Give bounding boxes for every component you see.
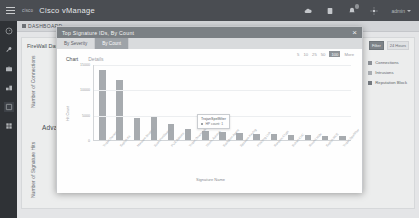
y-axis-tick-label: 0 <box>88 139 90 143</box>
sidebar-item-configuration[interactable] <box>4 64 14 74</box>
briefcase-icon <box>5 65 13 73</box>
gridline <box>94 65 351 66</box>
sidebar-item-tools[interactable] <box>4 83 14 93</box>
y-axis-tick-label: 10000 <box>80 88 90 92</box>
wrench-icon <box>5 46 13 54</box>
modal-header: Top Signature IDs, By Count × <box>57 27 362 38</box>
bar[interactable] <box>288 135 295 140</box>
bar[interactable] <box>99 70 106 140</box>
dashboard-icon <box>22 24 26 28</box>
legend-swatch <box>368 71 372 75</box>
x-axis-tick-label: Rootkit.Hide <box>308 145 329 164</box>
legend-swatch <box>368 61 372 65</box>
bar[interactable] <box>185 129 192 140</box>
x-axis-ticks: Trojan.GenericExploit.KitMalware.Dropper… <box>93 143 351 173</box>
x-axis-title: Signature Name <box>66 177 355 182</box>
legend-swatch <box>368 81 372 85</box>
sidebar-item-maintenance[interactable] <box>4 102 14 112</box>
tab-by-severity[interactable]: By Severity <box>57 38 95 49</box>
tools-icon <box>5 84 13 92</box>
user-menu[interactable]: admin <box>391 8 411 14</box>
gridline <box>94 90 351 91</box>
x-axis-tick-label: PUA.Adware <box>170 145 191 164</box>
chart-y-axis-label-top: Number of Connections <box>30 55 36 108</box>
chart-y-axis-label-bottom: Number of Signature Hits <box>30 142 36 198</box>
device-icon[interactable] <box>325 6 334 15</box>
count-option-25[interactable]: 25 <box>312 52 317 57</box>
panel-toolbar: Filter 24 Hours <box>369 41 409 50</box>
x-axis-tick-label: Backdoor.Agent <box>222 145 243 164</box>
top-navigation-bar: cisco Cisco vManage admin <box>0 0 419 21</box>
cisco-logo: cisco <box>22 8 33 13</box>
count-option-10[interactable]: 10 <box>303 52 308 57</box>
legend-label: Reputation Block <box>375 80 407 85</box>
count-option-100[interactable]: 100 <box>329 51 340 57</box>
user-label: admin <box>391 8 405 14</box>
bar[interactable] <box>305 135 312 140</box>
bar[interactable] <box>322 136 329 140</box>
filter-button[interactable]: Filter <box>369 41 384 50</box>
close-icon[interactable]: × <box>352 29 357 37</box>
x-axis-tick-label: Scan.PortSweep <box>153 145 174 164</box>
sidebar-item-dashboard[interactable] <box>4 26 14 36</box>
x-axis-tick-label: Spyware.Keylog <box>239 145 260 164</box>
x-axis-tick-label: Trojan.Spellfilter <box>342 145 363 164</box>
x-axis-tick-label: Botnet.CnC <box>291 145 312 164</box>
grid-icon <box>5 122 13 130</box>
y-axis-ticks: 050001000015000 <box>71 65 91 141</box>
gear-icon[interactable] <box>369 6 378 15</box>
tab-by-count[interactable]: By Count <box>95 38 129 49</box>
x-axis-tick-label: Phishing.Link <box>256 145 277 164</box>
bar[interactable] <box>134 118 141 140</box>
count-option-5[interactable]: 5 <box>297 52 299 57</box>
legend-item: Reputation Block <box>368 80 407 85</box>
bar-chart: Hit Count 050001000015000 Trojan.Generic… <box>66 65 355 189</box>
tooltip-title: TrojanSpellfilter <box>201 117 226 121</box>
app-title: Cisco vManage <box>39 6 95 15</box>
sidebar-item-administration[interactable] <box>4 121 14 131</box>
tooltip-value: HP count: 1 <box>205 122 223 126</box>
speedometer-icon <box>5 27 13 35</box>
x-axis-tick-label: Ransom.Crypt <box>273 145 294 164</box>
alarm-icon[interactable] <box>347 6 356 15</box>
legend-item: Connections <box>368 60 407 65</box>
window-icon <box>5 103 13 111</box>
tab-details[interactable]: Details <box>88 56 103 62</box>
legend-label: Intrusions <box>375 70 393 75</box>
x-axis-tick-label: Exploit.RCE <box>325 145 346 164</box>
x-axis-tick-label: Worm.Autorun <box>205 145 226 164</box>
modal-body: Chart Details 5 10 25 50 100 More Hit Co… <box>57 49 362 193</box>
modal-title: Top Signature IDs, By Count <box>62 30 134 36</box>
legend-label: Connections <box>375 60 398 65</box>
time-range-button[interactable]: 24 Hours <box>387 41 409 50</box>
menu-toggle-icon[interactable] <box>6 7 15 14</box>
count-option-50[interactable]: 50 <box>321 52 326 57</box>
bar[interactable] <box>339 136 346 140</box>
vmanage-app: cisco Cisco vManage admin <box>0 0 419 218</box>
top-signature-modal: Top Signature IDs, By Count × By Severit… <box>56 26 363 192</box>
tooltip-metric: HP count: 1 <box>201 122 226 126</box>
modal-tab-bar: By Severity By Count <box>57 38 362 49</box>
cloud-icon[interactable] <box>303 6 312 15</box>
more-button[interactable]: More <box>344 52 354 57</box>
x-axis-tick-label: Exploit.Kit <box>119 145 140 164</box>
bar[interactable] <box>271 134 278 140</box>
legend-item: Intrusions <box>368 70 407 75</box>
row-count-selector: 5 10 25 50 100 More <box>297 51 354 57</box>
chart-tooltip: TrojanSpellfilter HP count: 1 <box>197 114 230 129</box>
y-axis-tick-label: 15000 <box>80 63 90 67</box>
chevron-down-icon <box>407 10 411 12</box>
y-axis-title: Hit Count <box>66 106 70 121</box>
x-axis-tick-label: Trojan.Generic <box>102 145 123 164</box>
topbar-actions: admin <box>303 6 413 15</box>
bar[interactable] <box>236 133 243 140</box>
left-sidebar <box>0 21 17 218</box>
x-axis-tick-label: Malware.Dropper <box>136 145 157 164</box>
tab-chart[interactable]: Chart <box>66 56 78 62</box>
x-axis-tick-label: Trojan.Downloader <box>188 145 209 164</box>
sidebar-item-monitor[interactable] <box>4 45 14 55</box>
background-legend: Connections Intrusions Reputation Block <box>368 60 407 85</box>
bar[interactable] <box>253 134 260 140</box>
tooltip-swatch <box>201 123 203 125</box>
alarm-badge <box>355 4 360 9</box>
